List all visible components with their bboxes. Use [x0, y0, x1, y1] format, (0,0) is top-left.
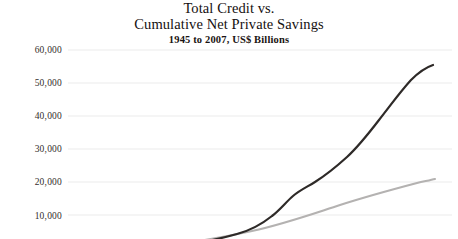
ytick-40000: 40,000: [4, 111, 62, 121]
plot-area: 60,000 50,000 40,000 30,000 20,000 10,00…: [0, 0, 458, 239]
ytick-10000: 10,000: [4, 211, 62, 221]
series-lines: [150, 65, 435, 239]
ytick-label: 20,000: [6, 177, 62, 187]
gridlines: [68, 50, 452, 215]
ytick-60000: 60,000: [4, 45, 62, 55]
ytick-50000: 50,000: [4, 78, 62, 88]
chart-canvas: [0, 0, 458, 239]
ytick-30000: 30,000: [4, 144, 62, 154]
ytick-label: 40,000: [6, 111, 62, 121]
series-line-cumulative-net-private-savings: [150, 179, 435, 239]
ytick-label: 60,000: [6, 45, 62, 55]
ytick-label: 30,000: [6, 144, 62, 154]
series-line-total-credit: [150, 65, 433, 239]
ytick-label: 10,000: [6, 211, 62, 221]
ytick-label: 50,000: [6, 78, 62, 88]
ytick-20000: 20,000: [4, 177, 62, 187]
chart-figure: Total Credit vs. Cumulative Net Private …: [0, 0, 458, 239]
